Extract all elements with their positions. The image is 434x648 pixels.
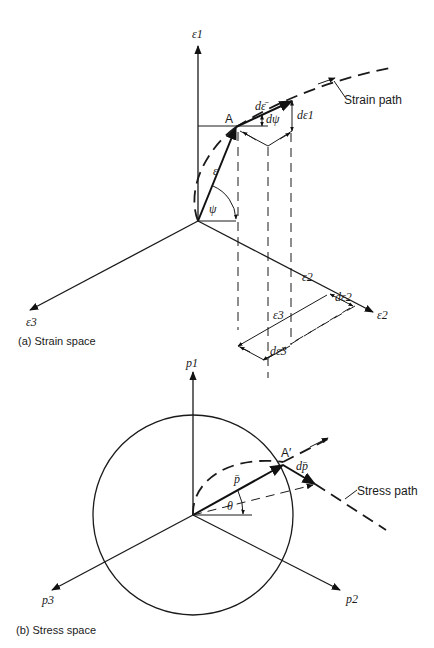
d-epsilon3-arrow-left <box>240 347 250 352</box>
stress-space-figure: p1 p3 p2 p̄ A′ dp̄ Stress path θ (b) Str… <box>16 356 418 636</box>
strain-space-caption: (a) Strain space <box>18 335 96 347</box>
p3-axis <box>52 515 193 590</box>
zigzag-arrow-right <box>280 133 290 139</box>
dashed-resultant <box>193 485 313 515</box>
strain-path-label: Strain path <box>344 93 402 107</box>
point-a-label: A <box>225 112 233 126</box>
strain-space-figure: ε1 ε3 ε2 ε Strain path A dε̄ dψ dε1 ψ <box>18 27 402 378</box>
epsilon3-projection-label: ε3 <box>273 308 284 322</box>
epsilon2-projection-label: ε2 <box>302 270 313 284</box>
stress-path-label: Stress path <box>357 484 418 498</box>
stress-path-upper-arrow <box>310 438 328 447</box>
p2-axis <box>193 515 340 590</box>
p1-axis-label: p1 <box>185 356 198 370</box>
d-epsilon-bar-label: dε̄ <box>255 99 269 113</box>
stress-space-caption: (b) Stress space <box>16 624 96 636</box>
theta-label: θ <box>227 499 233 513</box>
d-psi-label: dψ <box>266 112 280 126</box>
p2-axis-label: p2 <box>345 592 358 606</box>
strain-vector-label: ε <box>213 164 218 178</box>
psi-label: ψ <box>209 202 217 216</box>
theta-angle-arc <box>238 491 243 514</box>
strain-stress-diagram: ε1 ε3 ε2 ε Strain path A dε̄ dψ dε1 ψ <box>0 0 434 648</box>
p-bar-label: p̄ <box>233 472 240 486</box>
p3-axis-label: p3 <box>41 593 54 607</box>
component-zigzag <box>240 131 292 146</box>
epsilon1-axis-label: ε1 <box>192 27 203 41</box>
epsilon3-axis-label: ε3 <box>26 315 37 329</box>
stress-path-leader <box>345 490 357 499</box>
d-p-bar-label: dp̄ <box>296 459 308 473</box>
dashed-eps3-parallel-b <box>290 306 355 344</box>
d-epsilon3-label: dε3 <box>270 344 287 358</box>
epsilon3-axis <box>30 221 198 310</box>
d-epsilon2-label: dε2 <box>335 290 352 304</box>
d-epsilon1-label: dε1 <box>297 108 314 122</box>
zigzag-arrow-left <box>243 132 256 140</box>
point-a-prime-label: A′ <box>281 446 292 460</box>
epsilon2-axis-label: ε2 <box>377 308 388 322</box>
